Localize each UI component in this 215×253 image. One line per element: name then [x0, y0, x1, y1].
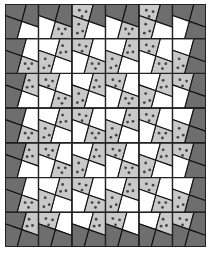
dot-icon [48, 134, 51, 137]
quilt-block-r1-c5 [173, 39, 207, 74]
dot-icon [128, 171, 131, 174]
dot-icon [115, 203, 118, 206]
dot-icon [61, 32, 64, 35]
dot-icon [94, 137, 97, 140]
dot-icon [78, 113, 81, 116]
dot-icon [143, 101, 146, 104]
dot-icon [144, 23, 147, 26]
dot-icon [24, 132, 27, 135]
dot-icon [148, 169, 151, 172]
dot-icon [115, 134, 118, 137]
quilt-block-r4-c0 [5, 143, 39, 178]
dot-icon [44, 78, 47, 81]
dot-icon [126, 121, 129, 124]
dot-icon [28, 148, 31, 151]
dot-icon [111, 127, 114, 130]
dot-icon [161, 137, 164, 140]
quilt-block-r4-c5 [173, 143, 207, 178]
dot-icon [26, 225, 29, 228]
dot-icon [97, 132, 100, 135]
dot-icon [128, 44, 131, 47]
dot-icon [48, 64, 51, 67]
dot-icon [152, 45, 155, 48]
quilt-block-r3-c0 [5, 108, 39, 143]
dot-icon [42, 66, 45, 69]
dot-icon [24, 62, 27, 65]
dot-icon [115, 64, 118, 67]
quilt-block-r6-c1 [39, 212, 73, 247]
dot-icon [27, 206, 30, 209]
quilt-block-r5-c2 [72, 178, 106, 213]
dot-icon [28, 79, 31, 82]
dot-icon [91, 201, 94, 204]
quilt-block-r2-c0 [5, 73, 39, 108]
dot-icon [109, 136, 112, 139]
dot-icon [118, 219, 121, 222]
dot-icon [59, 190, 62, 193]
dot-icon [185, 219, 188, 222]
dot-icon [152, 10, 155, 13]
dot-icon [124, 166, 127, 169]
dot-icon [91, 132, 94, 135]
quilt-block-r4-c1 [39, 143, 73, 178]
dot-icon [128, 183, 131, 186]
dot-icon [76, 32, 79, 35]
dot-icon [91, 62, 94, 65]
dot-icon [132, 51, 135, 54]
dot-icon [158, 132, 161, 135]
dot-icon [81, 169, 84, 172]
dot-icon [81, 30, 84, 33]
dot-icon [128, 102, 131, 105]
quilt-block-r3-c4 [139, 108, 173, 143]
dot-icon [42, 205, 45, 208]
dot-icon [93, 225, 96, 228]
quilt-block-r3-c5 [173, 108, 207, 143]
dot-icon [48, 203, 51, 206]
pinwheel-quilt-pattern [5, 4, 206, 247]
dot-icon [148, 15, 151, 18]
quilt-block-r0-c2 [72, 4, 106, 39]
dot-icon [182, 134, 185, 137]
dot-icon [85, 10, 88, 13]
dot-icon [30, 62, 33, 65]
dot-icon [161, 67, 164, 70]
quilt-block-r1-c1 [39, 39, 73, 74]
dot-icon [176, 136, 179, 139]
dot-icon [111, 148, 114, 151]
dot-icon [97, 201, 100, 204]
dot-icon [182, 203, 185, 206]
quilt-block-r0-c4 [139, 4, 173, 39]
dot-icon [64, 28, 67, 31]
dot-icon [152, 184, 155, 187]
quilt-block-r5-c4 [139, 178, 173, 213]
dot-icon [59, 121, 62, 124]
dot-icon [61, 114, 64, 117]
dot-icon [30, 132, 33, 135]
dot-icon [148, 30, 151, 33]
dot-icon [44, 57, 47, 60]
dot-icon [178, 196, 181, 199]
quilt-block-r1-c0 [5, 39, 39, 74]
dot-icon [185, 149, 188, 152]
quilt-block-r6-c3 [106, 212, 140, 247]
dot-icon [162, 79, 165, 82]
quilt-block-r2-c4 [139, 73, 173, 108]
dot-icon [78, 9, 81, 12]
dot-icon [164, 132, 167, 135]
dot-icon [98, 85, 101, 88]
dot-icon [26, 155, 29, 158]
dot-icon [111, 217, 114, 220]
quilt-block-r0-c3 [106, 4, 140, 39]
dot-icon [76, 101, 79, 104]
dot-icon [126, 51, 129, 54]
dot-icon [162, 218, 165, 221]
dot-icon [114, 85, 117, 88]
dot-icon [47, 85, 50, 88]
quilt-block-r5-c1 [39, 178, 73, 213]
dot-icon [81, 50, 84, 53]
quilt-block-r4-c4 [139, 143, 173, 178]
dot-icon [148, 50, 151, 53]
dot-icon [47, 154, 50, 157]
dot-icon [64, 166, 67, 169]
dot-icon [114, 154, 117, 157]
